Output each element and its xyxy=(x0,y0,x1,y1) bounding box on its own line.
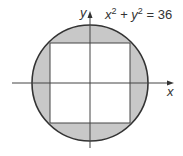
circle-equation: x2 + y2 = 36 xyxy=(105,6,172,22)
y-axis-arrow-icon xyxy=(88,11,93,18)
x-axis-label: x xyxy=(167,84,174,99)
eq-plus: + xyxy=(117,7,132,22)
y-axis-label: y xyxy=(80,5,87,20)
eq-rhs: = 36 xyxy=(143,7,172,22)
circle-square-diagram xyxy=(0,0,183,156)
